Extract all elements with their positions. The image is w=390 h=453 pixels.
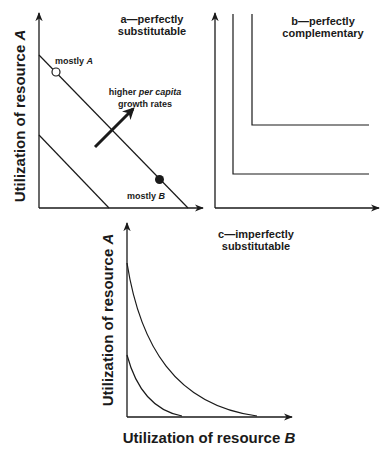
panel-c-imperfectly-substitutable: Utilization of resource A c—imperfectly …	[99, 223, 295, 446]
panel-c-x-axis-label: Utilization of resource B	[123, 429, 296, 446]
panel-c-title-line2: substitutable	[222, 240, 290, 252]
growth-direction-arrow-icon	[95, 109, 133, 147]
figure-resource-isoclines: Utilization of resource A a—perfectly su…	[0, 0, 390, 453]
panel-b-title-line1: b—perfectly	[291, 15, 355, 27]
panel-a-inner-isocline	[39, 135, 109, 208]
panel-b-perfectly-complementary: b—perfectly complementary	[215, 13, 379, 208]
growth-rate-label-line2: growth rates	[118, 99, 172, 109]
panel-a-perfectly-substitutable: Utilization of resource A a—perfectly su…	[11, 13, 203, 208]
mostly-a-label: mostly A	[55, 56, 93, 66]
mostly-a-open-circle-marker	[52, 68, 60, 76]
panel-a-title-line1: a—perfectly	[121, 13, 185, 25]
panel-c-title-line1: c—imperfectly	[218, 228, 295, 240]
panel-a-y-axis-label: Utilization of resource A	[11, 30, 28, 203]
mostly-b-label: mostly B	[127, 191, 166, 201]
mostly-b-filled-circle-marker	[155, 175, 164, 184]
panel-a-outer-isocline	[39, 55, 188, 208]
panel-c-y-axis-label: Utilization of resource A	[99, 234, 116, 407]
panel-c-outer-isocline	[127, 263, 257, 416]
panel-c-inner-isocline	[127, 355, 182, 416]
panel-b-title-line2: complementary	[282, 27, 364, 39]
panel-a-title-line2: substitutable	[118, 25, 186, 37]
growth-rate-label-line1: higher per capita	[109, 87, 182, 97]
